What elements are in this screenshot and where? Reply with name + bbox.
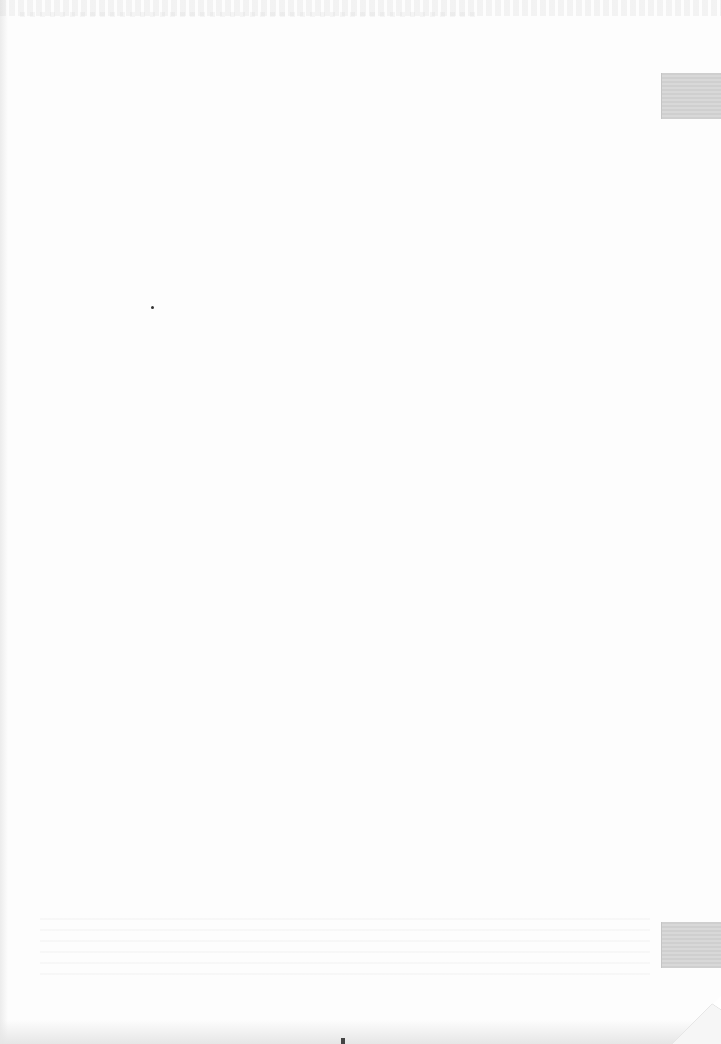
folded-corner-icon — [672, 996, 721, 1044]
index-tab-top — [661, 73, 721, 119]
scan-bottom-shade — [0, 1020, 721, 1044]
scanned-page — [0, 0, 721, 1044]
scan-edge-shadow — [0, 0, 8, 1044]
bleed-through-text-bottom — [40, 915, 650, 975]
bleed-through-text-top-line-2 — [20, 12, 480, 17]
dust-speck-bottom — [341, 1038, 345, 1044]
dust-speck — [151, 306, 154, 309]
index-tab-bottom — [661, 922, 721, 968]
